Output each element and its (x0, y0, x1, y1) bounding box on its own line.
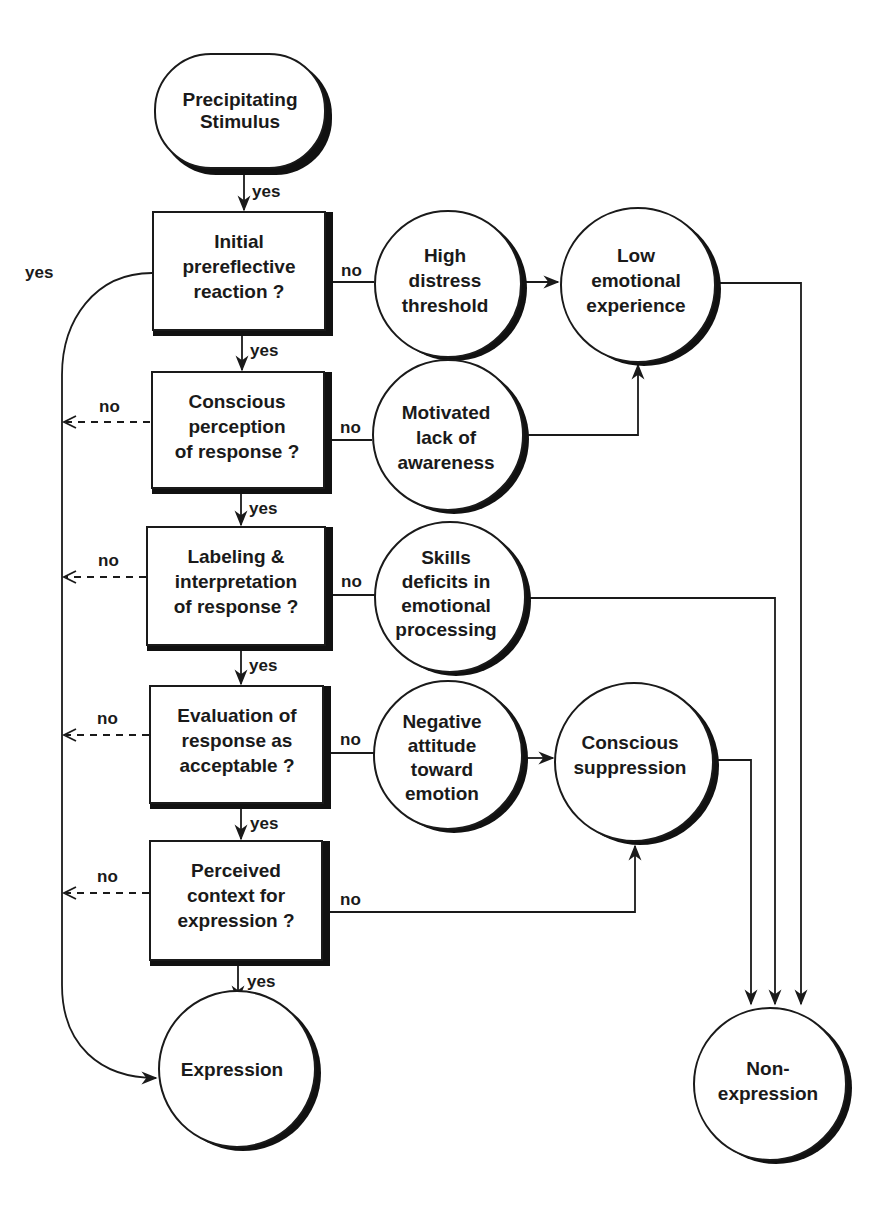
node-label: Non- (746, 1058, 789, 1079)
edge-label-no-dashed: no (97, 709, 118, 728)
node-label: context for (187, 885, 286, 906)
node-label: Labeling & (187, 546, 284, 567)
circle-skills-deficits: Skills deficits in emotional processing (375, 522, 531, 676)
node-label: distress (409, 270, 482, 291)
circle-motivated-lack-of-awareness: Motivated lack of awareness (373, 360, 529, 514)
node-label: suppression (574, 757, 687, 778)
edge-suppression-to-non-expression (714, 760, 751, 1004)
edge-label-yes: yes (249, 656, 277, 675)
node-label: Skills (421, 547, 471, 568)
edge-label-no-dashed: no (99, 397, 120, 416)
node-label: Evaluation of (177, 705, 297, 726)
node-label: emotional (591, 270, 681, 291)
node-label: acceptable ? (179, 755, 294, 776)
node-label: reaction ? (194, 281, 285, 302)
decision-evaluation-acceptable: Evaluation of response as acceptable ? (150, 686, 331, 809)
edge-label-no-dashed: no (97, 867, 118, 886)
edge-label-no: no (341, 261, 362, 280)
node-label: expression ? (177, 910, 294, 931)
edge-low-emotional-to-non-expression (716, 283, 801, 1004)
edge-label-no: no (340, 418, 361, 437)
decision-conscious-perception: Conscious perception of response ? (152, 372, 332, 494)
node-label: Conscious (581, 732, 678, 753)
node-label: awareness (397, 452, 494, 473)
node-label: Perceived (191, 860, 281, 881)
node-label: Expression (181, 1059, 283, 1080)
node-label: interpretation (175, 571, 297, 592)
node-label: of response ? (174, 596, 299, 617)
edge-label-no: no (340, 730, 361, 749)
node-label: Conscious (188, 391, 285, 412)
circle-non-expression: Non- expression (694, 1008, 852, 1164)
edge-label-yes: yes (250, 341, 278, 360)
node-label: Initial (214, 231, 264, 252)
edge-q5-no-to-suppression (330, 846, 635, 912)
edge-label-yes: yes (250, 814, 278, 833)
node-precipitating-stimulus: Precipitating Stimulus (155, 54, 332, 175)
node-label: Negative (402, 711, 481, 732)
node-label: Stimulus (200, 111, 280, 132)
circle-negative-attitude: Negative attitude toward emotion (374, 681, 528, 833)
node-label: emotion (405, 783, 479, 804)
node-label: perception (188, 416, 285, 437)
edge-label-yes-curved: yes (25, 263, 53, 282)
flowchart-canvas: yes yes yes yes yes yes yes no no no no … (0, 0, 892, 1208)
edge-q1-yes-to-expression (62, 273, 156, 1078)
flowchart-svg: yes yes yes yes yes yes yes no no no no … (0, 0, 892, 1208)
node-label: emotional (401, 595, 491, 616)
node-label: lack of (416, 427, 477, 448)
node-label: of response ? (175, 441, 300, 462)
node-label: expression (718, 1083, 818, 1104)
decision-labeling-interpretation: Labeling & interpretation of response ? (147, 527, 333, 651)
node-label: processing (395, 619, 496, 640)
node-label: experience (586, 295, 685, 316)
circle-high-distress-threshold: High distress threshold (375, 211, 527, 361)
node-label: Motivated (402, 402, 491, 423)
circle-conscious-suppression: Conscious suppression (555, 683, 719, 845)
edge-label-yes: yes (252, 182, 280, 201)
edge-label-no: no (340, 890, 361, 909)
node-label: deficits in (402, 571, 491, 592)
edge-label-yes: yes (247, 972, 275, 991)
circle-low-emotional-experience: Low emotional experience (561, 208, 721, 366)
edge-motivated-to-low-emotional (526, 365, 638, 435)
node-label: Precipitating (182, 89, 297, 110)
edge-label-no-dashed: no (98, 551, 119, 570)
edge-label-yes: yes (249, 499, 277, 518)
node-label: attitude (408, 735, 477, 756)
node-label: response as (182, 730, 293, 751)
node-label: High (424, 245, 466, 266)
node-label: prereflective (182, 256, 295, 277)
edge-label-no: no (341, 572, 362, 591)
decision-perceived-context: Perceived context for expression ? (150, 841, 330, 966)
node-label: toward (411, 759, 473, 780)
circle-expression: Expression (159, 991, 321, 1151)
node-label: threshold (402, 295, 489, 316)
decision-initial-prereflective-reaction: Initial prereflective reaction ? (153, 212, 333, 336)
node-label: Low (617, 245, 655, 266)
